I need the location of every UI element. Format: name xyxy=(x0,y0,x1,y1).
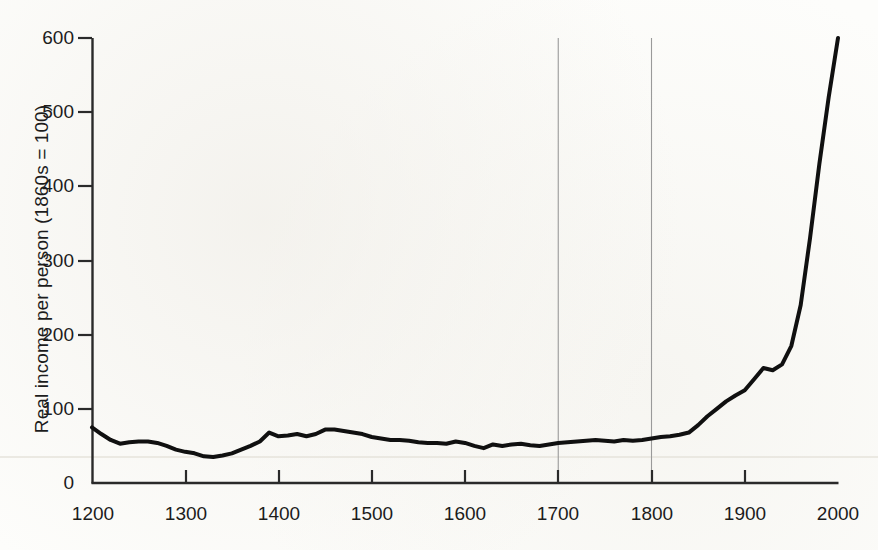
y-axis-ticks xyxy=(78,38,92,409)
plot-area xyxy=(0,0,878,550)
data-series-line xyxy=(92,38,838,457)
x-axis-ticks xyxy=(186,470,745,483)
chart-figure: Real income per person (1860s = 100) 600… xyxy=(0,0,878,550)
